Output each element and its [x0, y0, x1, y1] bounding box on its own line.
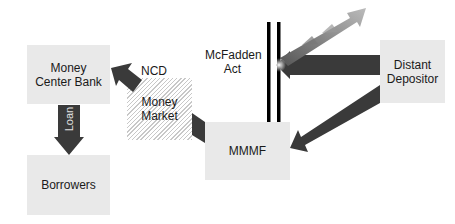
- ncd-arrow: [111, 63, 142, 92]
- depositor-to-mmmf-arrow: [290, 85, 380, 152]
- ncd-label: NCD: [141, 64, 167, 78]
- mmmf-to-money-market-arrow: [192, 113, 205, 143]
- loan-label: Loan: [62, 104, 76, 134]
- mcfadden-act-label: McFadden Act: [205, 48, 260, 76]
